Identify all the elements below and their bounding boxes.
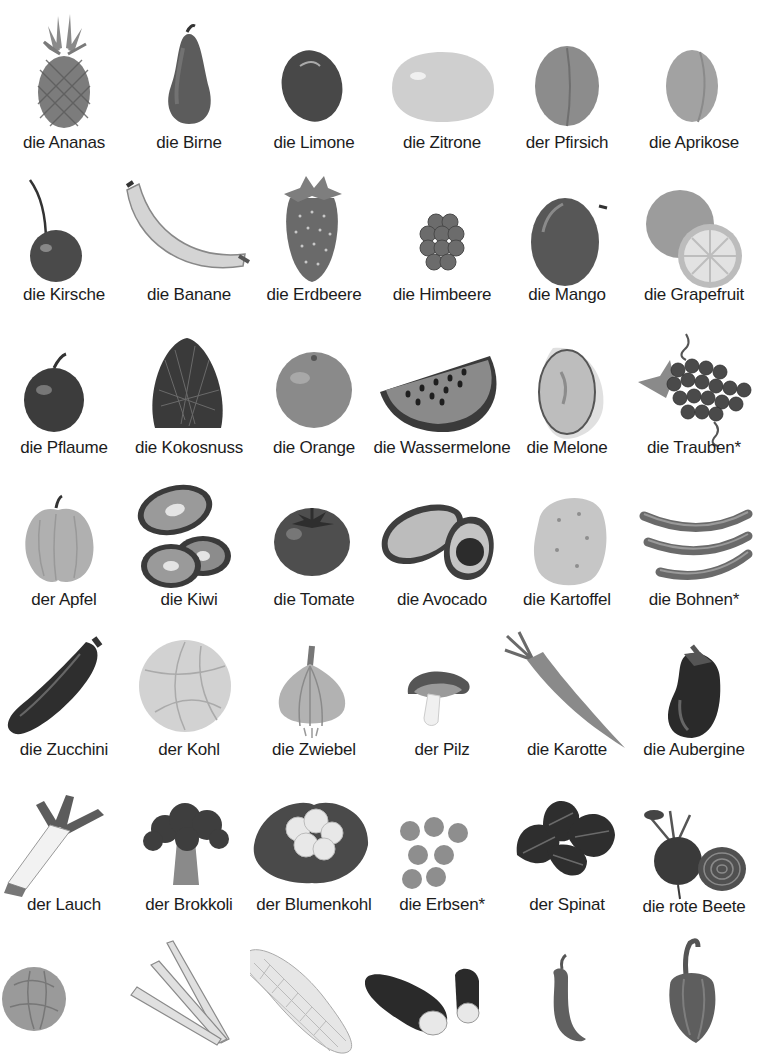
produce-label: die Aubergine — [620, 740, 768, 760]
produce-label: die Kartoffel — [493, 590, 641, 610]
produce-label: der Blumenkohl — [240, 895, 388, 915]
produce-label: die Zwiebel — [240, 740, 388, 760]
lime-icon — [250, 8, 378, 128]
grapefruit-icon — [630, 172, 758, 292]
cherry-icon — [0, 172, 128, 292]
watermelon-icon — [378, 334, 506, 454]
cucumber-icon — [365, 935, 493, 1055]
produce-label: der Pfirsich — [493, 133, 641, 153]
avocado-icon — [378, 480, 506, 600]
mushroom-icon — [378, 630, 506, 750]
strawberry-icon — [250, 172, 378, 292]
banana-icon — [125, 172, 253, 292]
produce-label: die Karotte — [493, 740, 641, 760]
produce-label: die Limone — [240, 133, 388, 153]
celery-icon — [125, 935, 253, 1055]
grapes-icon — [630, 330, 758, 450]
cauliflower-icon — [250, 785, 378, 905]
eggplant-icon — [630, 630, 758, 750]
beans-icon — [630, 480, 758, 600]
kiwi-icon — [125, 480, 253, 600]
lettuce-icon — [0, 935, 128, 1055]
lemon-icon — [378, 8, 506, 128]
produce-label: die Grapefruit — [620, 285, 768, 305]
broccoli-icon — [125, 785, 253, 905]
plum-icon — [0, 334, 128, 454]
raspberry-icon — [378, 172, 506, 292]
produce-label: die Aprikose — [620, 133, 768, 153]
mango-icon — [503, 172, 631, 292]
coconut-icon — [125, 320, 253, 440]
tomato-icon — [250, 480, 378, 600]
carrot-icon — [503, 630, 631, 750]
leek-icon — [0, 785, 128, 905]
apple-icon — [0, 480, 128, 600]
produce-label: die Tomate — [240, 590, 388, 610]
produce-label: die Mango — [493, 285, 641, 305]
produce-label: die rote Beete — [620, 897, 768, 917]
produce-label: der Spinat — [493, 895, 641, 915]
produce-label: die Melone — [493, 438, 641, 458]
pear-icon — [125, 8, 253, 128]
produce-label: die Bohnen* — [620, 590, 768, 610]
produce-label: die Trauben* — [620, 438, 768, 458]
melon-icon — [503, 334, 631, 454]
spinach-icon — [503, 785, 631, 905]
corn-icon — [250, 935, 378, 1055]
onion-icon — [250, 630, 378, 750]
chili-pepper-icon — [510, 935, 638, 1055]
produce-label: die Erdbeere — [240, 285, 388, 305]
zucchini-icon — [0, 630, 128, 750]
peas-icon — [378, 785, 506, 905]
bell-pepper-icon — [630, 935, 758, 1055]
pineapple-icon — [0, 8, 128, 128]
orange-icon — [250, 334, 378, 454]
apricot-icon — [630, 8, 758, 128]
cabbage-icon — [125, 630, 253, 750]
peach-icon — [503, 8, 631, 128]
potato-icon — [503, 480, 631, 600]
beetroot-icon — [630, 785, 758, 905]
produce-label: die Orange — [240, 438, 388, 458]
